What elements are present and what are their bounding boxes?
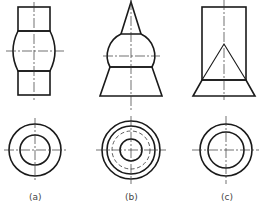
view-c: (c) <box>192 0 259 202</box>
top-view-b <box>96 116 166 184</box>
label-c: (c) <box>221 192 233 202</box>
top-view-a <box>4 118 66 182</box>
view-a: (a) <box>4 2 66 202</box>
view-b: (b) <box>96 0 166 202</box>
front-view-b <box>100 0 162 110</box>
front-view-a <box>6 2 64 100</box>
front-view-c <box>193 0 255 100</box>
top-view-c <box>192 116 259 184</box>
label-b: (b) <box>125 192 138 202</box>
label-a: (a) <box>29 192 42 202</box>
engineering-drawing: (a) (b) <box>0 0 259 212</box>
